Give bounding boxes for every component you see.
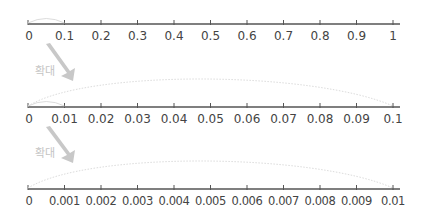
tick-label: 0.08 bbox=[307, 112, 334, 126]
tick-label: 0.09 bbox=[343, 112, 370, 126]
number-line-0-to-0.01: 00.0010.0020.0030.0040.0050.0060.0070.00… bbox=[26, 185, 406, 208]
tick-label: 0.1 bbox=[383, 112, 402, 126]
segment-highlight-arc bbox=[28, 19, 65, 24]
tick-label: 0.001 bbox=[49, 194, 80, 208]
tick-label: 0.3 bbox=[128, 29, 147, 43]
tick-label: 0.02 bbox=[88, 112, 115, 126]
tick-label: 0.6 bbox=[237, 29, 256, 43]
tick-label: 0 bbox=[25, 112, 33, 126]
tick-label: 0.04 bbox=[161, 112, 188, 126]
tick-label: 0.2 bbox=[91, 29, 110, 43]
tick-label: 0.4 bbox=[164, 29, 183, 43]
tick-label: 0.05 bbox=[197, 112, 224, 126]
segment-highlight-arc bbox=[28, 102, 65, 107]
zoom-number-line-diagram: 00.10.20.30.40.50.60.70.80.9100.010.020.… bbox=[0, 0, 429, 217]
tick-label: 0 bbox=[26, 194, 33, 208]
number-line-0-to-1: 00.10.20.30.40.50.60.70.80.91 bbox=[25, 20, 400, 43]
zoom-range-arc bbox=[28, 161, 393, 188]
tick-label: 0.9 bbox=[347, 29, 366, 43]
tick-label: 0.002 bbox=[86, 194, 117, 208]
tick-label: 0.5 bbox=[201, 29, 220, 43]
number-line-0-to-0.1: 00.010.020.030.040.050.060.070.080.090.1 bbox=[25, 103, 402, 126]
tick-label: 1 bbox=[389, 29, 397, 43]
tick-label: 0.07 bbox=[270, 112, 297, 126]
tick-label: 0.8 bbox=[310, 29, 329, 43]
tick-label: 0.7 bbox=[274, 29, 293, 43]
tick-label: 0 bbox=[25, 29, 33, 43]
tick-label: 0.01 bbox=[51, 112, 78, 126]
zoom-label: 확대 bbox=[35, 65, 55, 78]
tick-label: 0.007 bbox=[268, 194, 299, 208]
tick-label: 0.009 bbox=[341, 194, 372, 208]
tick-label: 0.01 bbox=[381, 194, 405, 208]
tick-label: 0.005 bbox=[195, 194, 226, 208]
tick-label: 0.008 bbox=[305, 194, 336, 208]
tick-label: 0.003 bbox=[122, 194, 153, 208]
tick-label: 0.004 bbox=[159, 194, 190, 208]
tick-label: 0.006 bbox=[232, 194, 263, 208]
zoom-range-arc bbox=[28, 79, 393, 106]
tick-label: 0.06 bbox=[234, 112, 261, 126]
tick-label: 0.03 bbox=[124, 112, 151, 126]
tick-label: 0.1 bbox=[55, 29, 74, 43]
zoom-label: 확대 bbox=[35, 147, 55, 160]
